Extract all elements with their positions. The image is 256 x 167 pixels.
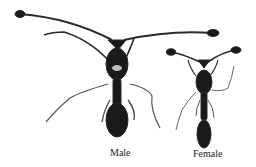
male-specimen [15,11,219,138]
insect-illustration [0,0,256,167]
male-label: Male [110,147,131,158]
insect-figure: Male Female [0,0,256,167]
female-label: Female [193,148,222,159]
female-specimen [167,47,242,148]
